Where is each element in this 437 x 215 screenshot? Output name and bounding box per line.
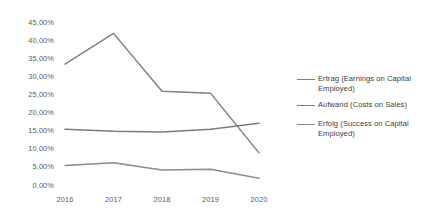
legend-line-swatch-icon [297,79,315,81]
legend-line-swatch-icon [297,124,315,126]
x-axis-tick-label: 2019 [202,196,219,203]
x-axis-tick-label: 2020 [251,196,268,203]
x-axis-tick-label: 2016 [57,196,74,203]
legend-entry[interactable]: Erfolg (Success on Capital Employed) [297,119,434,138]
legend-label: Aufwand (Costs on Sales) [318,100,434,110]
x-axis-tick-label: 2018 [154,196,171,203]
legend-label: Ertrag (Earnings on Capital Employed) [318,74,434,93]
x-axis-tick-label: 2017 [105,196,122,203]
line-chart-figure: 0,00%5,00%10,00%15,00%20,00%25,00%30,00%… [0,0,437,215]
legend-line-swatch-icon [297,105,315,107]
legend-entry[interactable]: Ertrag (Earnings on Capital Employed) [297,74,434,93]
legend-entry[interactable]: Aufwand (Costs on Sales) [297,100,434,110]
legend-label: Erfolg (Success on Capital Employed) [318,119,434,138]
x-axis-tick-labels: 20162017201820192020 [0,0,290,215]
